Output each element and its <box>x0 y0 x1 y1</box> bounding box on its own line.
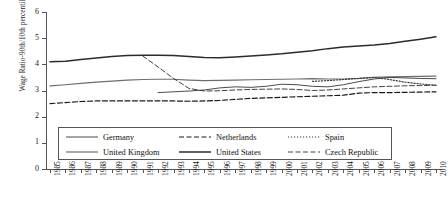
legend-item-netherlands[interactable]: Netherlands <box>178 129 256 145</box>
legend-item-united-kingdom[interactable]: United Kingdom <box>65 144 160 160</box>
legend-item-czech-republic[interactable]: Czech Republic <box>287 144 378 160</box>
legend-label: Spain <box>325 133 344 142</box>
y-tick-label: 0 <box>35 164 39 173</box>
legend-item-united-states[interactable]: United States <box>178 144 261 160</box>
legend-label: Czech Republic <box>325 148 378 157</box>
legend-item-spain[interactable]: Spain <box>287 129 344 145</box>
legend-swatch-icon <box>287 147 321 157</box>
chart-figure: Wage Ratio-90th/10th percentile 0123456 … <box>0 0 448 216</box>
legend-item-germany[interactable]: Germany <box>65 129 134 145</box>
chart-legend: GermanyNetherlandsSpainUnited KingdomUni… <box>58 127 392 160</box>
legend-label: United States <box>216 148 261 157</box>
y-tick-label: 2 <box>35 111 39 120</box>
legend-row: GermanyNetherlandsSpain <box>59 129 391 145</box>
legend-label: Germany <box>103 133 134 142</box>
y-tick-label: 4 <box>35 59 39 68</box>
legend-swatch-icon <box>65 132 99 142</box>
legend-swatch-icon <box>287 132 321 142</box>
legend-swatch-icon <box>178 132 212 142</box>
legend-label: United Kingdom <box>103 148 160 157</box>
legend-swatch-icon <box>65 147 99 157</box>
series-line-netherlands <box>50 92 436 104</box>
series-line-czech-republic <box>143 56 436 91</box>
y-tick-label: 3 <box>35 85 39 94</box>
y-tick-label: 5 <box>35 33 39 42</box>
legend-swatch-icon <box>178 147 212 157</box>
y-tick-label: 6 <box>35 7 39 16</box>
series-line-united-states <box>50 37 436 62</box>
legend-row: United KingdomUnited StatesCzech Republi… <box>59 144 391 160</box>
y-axis-title: Wage Ratio-90th/10th percentile <box>19 0 27 119</box>
legend-label: Netherlands <box>216 133 256 142</box>
y-tick-label: 1 <box>35 137 39 146</box>
